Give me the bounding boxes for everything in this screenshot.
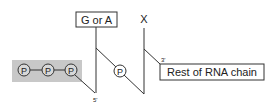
base-label: G or A (81, 14, 113, 26)
rna-chain-label: Rest of RNA chain (167, 66, 257, 78)
triphosphate-link (75, 75, 95, 93)
svg-text:P: P (21, 66, 27, 76)
rna-5prime-cap-diagram: P P P G or A 5' P X 3' Rest of RNA chain (0, 0, 276, 105)
phosphate-2: P (42, 64, 54, 76)
three-prime-label: 3' (161, 57, 165, 63)
phosphate-3: P (65, 64, 77, 76)
five-prime-label: 5' (93, 97, 97, 103)
phosphodiester-link-a (96, 48, 116, 67)
svg-text:P: P (117, 67, 123, 77)
svg-text:P: P (68, 66, 74, 76)
phosphodiester-link-b (124, 75, 144, 94)
phosphate-1: P (18, 64, 30, 76)
chain-link (144, 49, 160, 64)
svg-text:P: P (45, 66, 51, 76)
x-label: X (140, 13, 148, 25)
